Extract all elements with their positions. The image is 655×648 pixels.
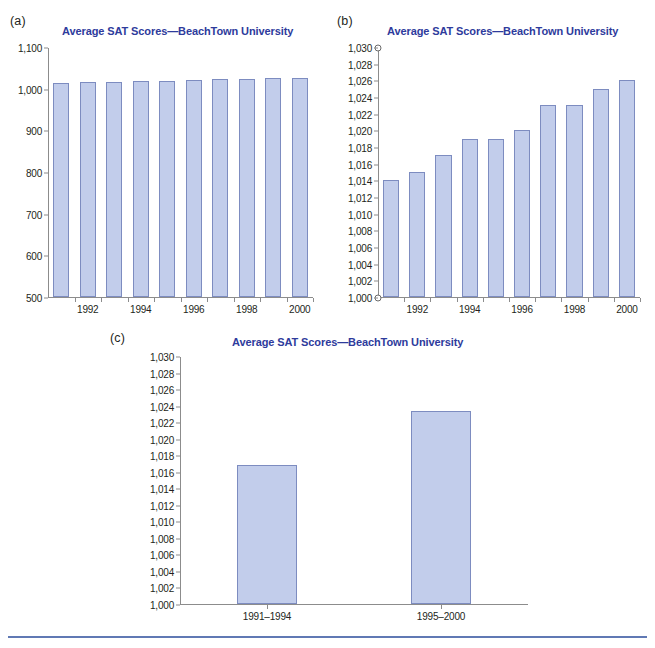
x-tick-label: 1998 <box>236 304 257 315</box>
bar <box>292 78 308 297</box>
y-tick-label: 1,018 <box>348 143 378 154</box>
bar <box>383 180 399 297</box>
y-tick-label: 1,010 <box>150 517 180 528</box>
x-tick-mark <box>128 298 129 302</box>
x-tick-mark <box>287 298 288 302</box>
y-tick-label: 1,100 <box>18 43 48 54</box>
panel-c-y-axis <box>180 357 181 605</box>
y-tick-label: 1,030 <box>150 352 180 363</box>
y-tick-label: 1,006 <box>150 550 180 561</box>
bar <box>435 155 451 297</box>
y-tick-label: 1,022 <box>150 418 180 429</box>
y-tick-label: 1,008 <box>348 226 378 237</box>
y-tick-label: 1,000 <box>18 84 48 95</box>
panel-a-y-axis <box>48 48 49 298</box>
panel-b-plot: 1,0001,0021,0041,0061,0081,0101,0121,014… <box>378 48 640 298</box>
bar <box>265 78 281 297</box>
panel-a-label: (a) <box>10 14 26 28</box>
x-tick-label: 1994 <box>130 304 151 315</box>
x-tick-mark <box>313 298 314 302</box>
y-tick-label: 1,014 <box>150 484 180 495</box>
panel-b: (b) Average SAT Scores—BeachTown Univers… <box>327 0 655 325</box>
y-tick-label: 1,024 <box>348 93 378 104</box>
x-tick-mark <box>154 298 155 302</box>
y-tick-label: 1,010 <box>348 209 378 220</box>
y-tick-label: 1,012 <box>348 193 378 204</box>
x-tick-mark <box>234 298 235 302</box>
y-tick-label: 900 <box>26 126 48 137</box>
y-tick-label: 1,000 <box>348 293 378 304</box>
y-tick-label: 1,020 <box>348 126 378 137</box>
x-tick-label: 1998 <box>564 304 585 315</box>
panel-a-plot: 5006007008009001,0001,100199219941996199… <box>48 48 313 298</box>
panel-c-label: (c) <box>110 331 125 345</box>
bar <box>411 411 470 604</box>
y-tick-label: 1,002 <box>150 583 180 594</box>
bar <box>80 82 96 297</box>
bar <box>566 105 582 297</box>
y-tick-label: 1,016 <box>348 159 378 170</box>
y-tick-label: 1,006 <box>348 243 378 254</box>
x-tick-mark <box>535 298 536 302</box>
x-tick-label: 1994 <box>459 304 480 315</box>
bar <box>540 105 556 297</box>
y-tick-label: 1,028 <box>348 59 378 70</box>
bar <box>488 139 504 297</box>
y-tick-label: 600 <box>26 251 48 262</box>
y-tick-label: 500 <box>26 293 48 304</box>
panel-b-title: Average SAT Scores—BeachTown University <box>387 25 618 37</box>
y-tick-label: 1,022 <box>348 109 378 120</box>
x-tick-label: 1991–1994 <box>243 611 291 622</box>
panel-c-x-axis <box>180 604 528 605</box>
x-tick-mark <box>430 298 431 302</box>
bar <box>237 465 296 604</box>
bar <box>212 79 228 297</box>
bar <box>106 82 122 297</box>
y-tick-label: 1,026 <box>348 76 378 87</box>
x-tick-mark <box>441 605 442 609</box>
x-tick-label: 1996 <box>511 304 532 315</box>
y-tick-label: 1,026 <box>150 385 180 396</box>
bar <box>619 80 635 297</box>
y-tick-label: 1,000 <box>150 600 180 611</box>
y-tick-label: 1,002 <box>348 276 378 287</box>
y-tick-label: 1,004 <box>348 259 378 270</box>
y-tick-label: 1,016 <box>150 467 180 478</box>
x-tick-label: 1995–2000 <box>417 611 465 622</box>
y-tick-label: 1,030 <box>348 43 378 54</box>
x-tick-label: 1992 <box>77 304 98 315</box>
x-tick-mark <box>509 298 510 302</box>
x-tick-label: 2000 <box>616 304 637 315</box>
x-tick-mark <box>75 298 76 302</box>
x-tick-mark <box>483 298 484 302</box>
bar <box>186 80 202 297</box>
x-tick-label: 1996 <box>183 304 204 315</box>
y-tick-label: 1,014 <box>348 176 378 187</box>
panel-c-plot: 1,0001,0021,0041,0061,0081,0101,0121,014… <box>180 357 528 605</box>
x-tick-mark <box>404 298 405 302</box>
x-tick-label: 2000 <box>289 304 310 315</box>
y-tick-label: 1,018 <box>150 451 180 462</box>
bar <box>462 139 478 297</box>
panel-b-y-axis <box>378 48 379 298</box>
y-tick-label: 1,012 <box>150 500 180 511</box>
bar <box>239 79 255 297</box>
x-tick-mark <box>614 298 615 302</box>
x-tick-mark <box>181 298 182 302</box>
footer-rule <box>8 636 647 638</box>
y-tick-label: 1,004 <box>150 566 180 577</box>
panel-c: (c) Average SAT Scores—BeachTown Univers… <box>0 325 655 625</box>
bar <box>593 89 609 297</box>
x-tick-mark <box>101 298 102 302</box>
y-tick-label: 700 <box>26 209 48 220</box>
panel-a-title: Average SAT Scores—BeachTown University <box>62 25 293 37</box>
x-tick-mark <box>267 605 268 609</box>
bar <box>159 81 175 297</box>
panel-b-label: (b) <box>337 14 353 28</box>
y-tick-label: 1,020 <box>150 434 180 445</box>
bar <box>514 130 530 297</box>
y-tick-label: 1,024 <box>150 401 180 412</box>
x-tick-mark <box>207 298 208 302</box>
panel-a: (a) Average SAT Scores—BeachTown Univers… <box>0 0 327 325</box>
bar <box>409 172 425 297</box>
